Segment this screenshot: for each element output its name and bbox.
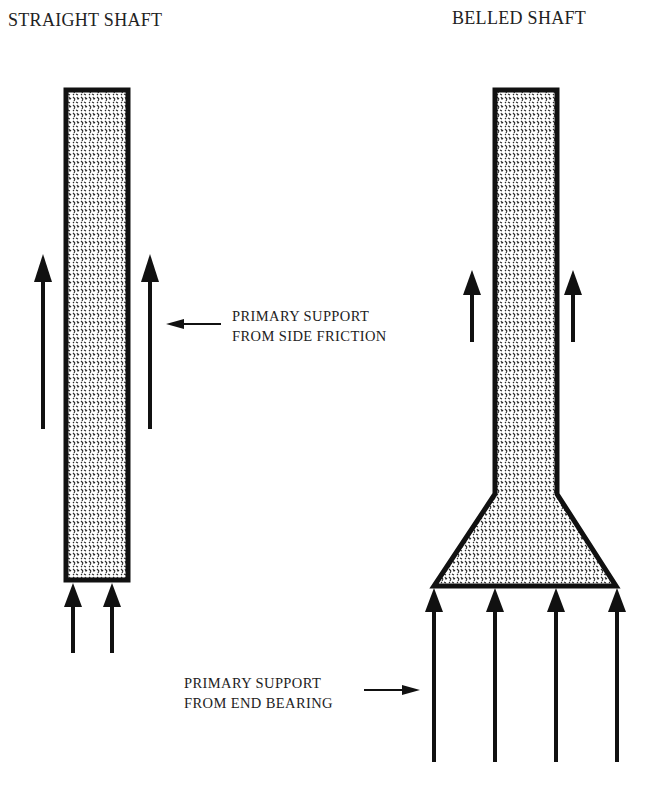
- side-friction-pointer: [166, 319, 221, 329]
- side-friction-note: PRIMARY SUPPORT FROM SIDE FRICTION: [232, 306, 387, 346]
- end-bearing-pointer: [364, 685, 420, 695]
- end-bearing-arrows-straight: [64, 583, 121, 653]
- shaft-support-diagram: STRAIGHT SHAFT BELLED SHAFT PRIMARY SUPP…: [0, 0, 661, 792]
- straight-shaft-title: STRAIGHT SHAFT: [8, 10, 162, 31]
- end-bearing-arrows-belled: [425, 588, 626, 762]
- end-bearing-note-line2: FROM END BEARING: [184, 693, 333, 713]
- side-friction-note-line1: PRIMARY SUPPORT: [232, 306, 387, 326]
- side-friction-note-line2: FROM SIDE FRICTION: [232, 326, 387, 346]
- belled-shaft: [434, 90, 616, 586]
- end-bearing-note: PRIMARY SUPPORT FROM END BEARING: [184, 673, 333, 713]
- straight-shaft: [66, 90, 128, 580]
- belled-shaft-title: BELLED SHAFT: [452, 8, 586, 29]
- end-bearing-note-line1: PRIMARY SUPPORT: [184, 673, 333, 693]
